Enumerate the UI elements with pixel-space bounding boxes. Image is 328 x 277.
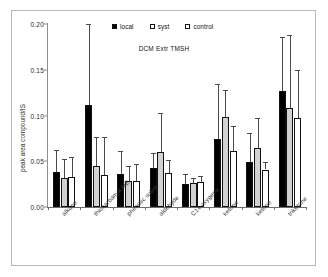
error-cap-control-6 [263, 162, 268, 163]
y-tick-mark [44, 69, 47, 70]
bar-local-1 [85, 105, 92, 207]
error-cap-control-1 [102, 137, 107, 138]
error-bar-syst-5 [225, 90, 226, 117]
error-cap-syst-0 [62, 159, 67, 160]
bar-syst-1 [93, 166, 100, 207]
error-cap-control-3 [166, 160, 171, 161]
y-tick-label: 0.15 [31, 66, 44, 73]
error-cap-control-0 [69, 157, 74, 158]
y-tick-label: 0.10 [31, 112, 44, 119]
x-tick-mark [48, 207, 49, 210]
x-tick-mark [113, 207, 114, 210]
error-bar-control-3 [169, 160, 170, 173]
error-cap-syst-7 [287, 35, 292, 36]
plot-area [48, 24, 306, 207]
error-bar-local-5 [218, 84, 219, 139]
error-cap-syst-6 [255, 118, 260, 119]
bar-local-5 [214, 139, 221, 207]
x-tick-mark [209, 207, 210, 210]
error-bar-local-7 [282, 37, 283, 91]
bar-syst-7 [286, 108, 293, 207]
error-bar-local-2 [121, 151, 122, 174]
error-cap-local-4 [183, 174, 188, 175]
error-bar-control-7 [298, 70, 299, 118]
error-bar-syst-0 [64, 159, 65, 177]
error-cap-local-6 [247, 133, 252, 134]
error-cap-syst-2 [126, 166, 131, 167]
y-tick-mark [44, 24, 47, 25]
bar-control-7 [294, 118, 301, 207]
x-tick-mark [80, 207, 81, 210]
x-tick-mark [177, 207, 178, 210]
bar-syst-4 [190, 183, 197, 207]
error-cap-local-0 [54, 150, 59, 151]
bar-local-6 [246, 162, 253, 207]
error-cap-control-7 [295, 70, 300, 71]
error-cap-syst-4 [191, 178, 196, 179]
error-bar-local-0 [56, 150, 57, 172]
error-bar-syst-7 [290, 35, 291, 108]
y-tick-mark [44, 161, 47, 162]
y-axis-label-text: peak area compound/IS [19, 104, 26, 172]
bar-local-4 [182, 184, 189, 207]
error-bar-syst-2 [129, 166, 130, 182]
error-bar-control-1 [104, 137, 105, 175]
bar-syst-5 [222, 117, 229, 207]
x-tick-mark [242, 207, 243, 210]
error-bar-local-1 [89, 24, 90, 105]
error-bar-control-2 [136, 164, 137, 181]
chart-figure: localsystcontrol DCM Extr TMSH peak area… [0, 0, 328, 277]
error-cap-local-3 [151, 153, 156, 154]
y-tick-label: 0.20 [31, 21, 44, 28]
error-bar-local-4 [185, 174, 186, 184]
y-tick-mark [44, 115, 47, 116]
x-tick-mark [145, 207, 146, 210]
x-tick-mark [274, 207, 275, 210]
bar-syst-6 [254, 148, 261, 207]
y-tick-mark [44, 207, 47, 208]
error-bar-syst-1 [96, 137, 97, 166]
error-bar-control-0 [72, 157, 73, 177]
error-cap-control-2 [134, 164, 139, 165]
x-tick-mark [306, 207, 307, 210]
error-bar-syst-6 [258, 118, 259, 148]
error-cap-syst-1 [94, 137, 99, 138]
error-bar-local-3 [153, 153, 154, 168]
error-cap-local-5 [215, 84, 220, 85]
error-cap-syst-5 [223, 90, 228, 91]
y-tick-label: 0.00 [31, 204, 44, 211]
error-bar-control-5 [233, 126, 234, 151]
error-cap-local-1 [86, 24, 91, 25]
error-cap-local-7 [280, 37, 285, 38]
error-cap-syst-3 [158, 113, 163, 114]
bar-local-0 [53, 172, 60, 207]
error-cap-control-5 [231, 126, 236, 127]
bar-syst-0 [61, 178, 68, 207]
bar-local-7 [279, 91, 286, 207]
y-tick-label: 0.05 [31, 158, 44, 165]
error-bar-control-6 [265, 162, 266, 169]
error-cap-local-2 [118, 151, 123, 152]
bar-syst-3 [157, 152, 164, 207]
error-bar-local-6 [250, 133, 251, 162]
error-cap-control-4 [198, 176, 203, 177]
error-bar-syst-3 [161, 113, 162, 152]
